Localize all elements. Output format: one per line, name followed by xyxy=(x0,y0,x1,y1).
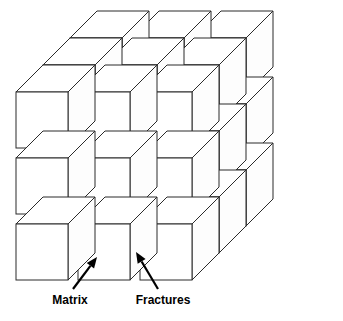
cube-grid xyxy=(16,11,273,280)
fractured-reservoir-diagram: MatrixFractures xyxy=(0,0,343,321)
cube-face-front xyxy=(16,224,68,280)
label-matrix: Matrix xyxy=(52,293,88,307)
label-fractures: Fractures xyxy=(136,293,191,307)
figure-canvas: MatrixFractures xyxy=(0,0,343,321)
